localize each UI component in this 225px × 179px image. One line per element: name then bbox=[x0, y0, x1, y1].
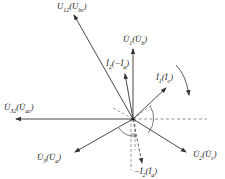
label-u12: U12(Ubc) bbox=[57, 2, 87, 13]
label-i2-paren: (−İ bbox=[112, 58, 123, 68]
label-u2: U̇2(U̇c) bbox=[193, 150, 217, 161]
label-u12-paren: (U bbox=[69, 1, 78, 11]
label-u2-close: ) bbox=[214, 149, 217, 159]
label-u3: U̇3(U̇a) bbox=[37, 153, 61, 164]
vector-u2 bbox=[133, 119, 186, 152]
label-u1-paren: (U̇ bbox=[132, 34, 141, 44]
vector-i1 bbox=[133, 88, 166, 119]
label-i1-close: ) bbox=[170, 72, 173, 82]
label-u1: U̇1(U̇b) bbox=[123, 35, 147, 46]
phasor-canvas bbox=[0, 0, 225, 179]
rotation-direction-arc bbox=[176, 65, 189, 95]
label-u32-close: ) bbox=[31, 102, 34, 112]
label-u3-paren: (U̇ bbox=[46, 152, 55, 162]
label-neg-i2-close: ) bbox=[154, 166, 157, 176]
label-neg-i2-symbol: −İ bbox=[134, 166, 143, 176]
origin-point bbox=[131, 117, 134, 120]
phasor-diagram: U12(Ubc) U̇1(U̇b) İ2(−İa) İ1(İc) U̇32(U̇… bbox=[0, 0, 225, 179]
label-i1: İ1(İc) bbox=[156, 73, 173, 84]
label-u12-close: ) bbox=[84, 1, 87, 11]
label-u1-close: ) bbox=[144, 34, 147, 44]
label-neg-i2: −İ2(İa) bbox=[134, 167, 157, 178]
label-u3-close: ) bbox=[58, 152, 61, 162]
label-i2: İ2(−İa) bbox=[106, 59, 129, 70]
angle-arc-lower bbox=[119, 128, 136, 136]
vector-neg-i2 bbox=[133, 119, 142, 163]
label-u2-paren: (U̇ bbox=[202, 149, 211, 159]
vector-u3 bbox=[75, 119, 133, 152]
label-i2-close: ) bbox=[126, 58, 129, 68]
label-u32: U̇32(U̇ac) bbox=[4, 103, 34, 114]
label-u32-paren: (U̇ bbox=[16, 102, 25, 112]
